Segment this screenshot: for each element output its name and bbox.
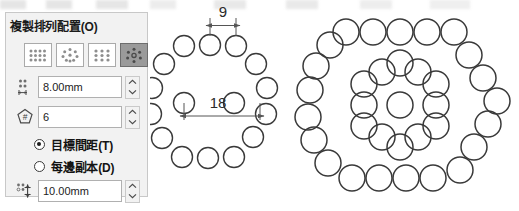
spacing-spinner-up[interactable]	[126, 77, 139, 88]
dimension-across-spacing: 18	[180, 94, 265, 120]
pattern-type-button-group	[24, 43, 148, 67]
radio-copies-per-side-label: 每邊副本(D)	[51, 158, 114, 175]
distance-spinner-up[interactable]	[126, 181, 139, 192]
distance-field-row: 10.00mm	[14, 179, 140, 203]
count-input[interactable]: 6	[38, 106, 122, 128]
circular-array-icon	[60, 47, 80, 63]
pattern-type-linear-array-button[interactable]	[24, 43, 52, 67]
pattern-type-rectangular-array-button[interactable]	[88, 43, 116, 67]
spacing-field-row: 8.00mm	[14, 75, 140, 99]
pattern-property-panel: 複製排列配置(O)	[5, 12, 148, 197]
dimension-side-spacing: 9	[206, 3, 241, 36]
spacing-spinner-down[interactable]	[126, 87, 139, 98]
hexagon-nested-array	[295, 19, 510, 191]
rectangular-array-icon	[93, 48, 111, 63]
polygon-array-icon	[124, 47, 144, 64]
dimension-side-spacing-value: 9	[219, 3, 227, 20]
radio-option-copies-per-side[interactable]: 每邊副本(D)	[34, 157, 114, 175]
distance-input[interactable]: 10.00mm	[38, 180, 122, 202]
spacing-input[interactable]: 8.00mm	[38, 76, 122, 98]
row-spacing-icon	[14, 180, 36, 202]
spacing-spinner[interactable]	[125, 76, 140, 99]
count-spinner-up[interactable]	[126, 107, 139, 118]
polygon-count-icon: #	[14, 106, 36, 128]
page-title: 複製排列配置(O)	[10, 17, 98, 34]
radio-target-spacing-label: 目標間距(T)	[51, 136, 113, 153]
linear-array-icon	[28, 48, 48, 63]
pattern-type-polygon-array-button[interactable]	[120, 43, 148, 67]
spacing-icon	[14, 76, 36, 98]
array-center-circle	[387, 92, 413, 118]
svg-text:#: #	[23, 112, 28, 122]
drawing-canvas: 9 18	[150, 0, 519, 211]
count-spinner[interactable]	[125, 106, 140, 129]
radio-option-target-spacing[interactable]: 目標間距(T)	[34, 135, 113, 153]
count-spinner-down[interactable]	[126, 117, 139, 128]
pattern-type-circular-array-button[interactable]	[56, 43, 84, 67]
radio-copies-per-side-indicator[interactable]	[34, 161, 45, 172]
distance-spinner[interactable]	[125, 180, 140, 203]
dimension-across-spacing-value: 18	[210, 94, 227, 111]
count-field-row: # 6	[14, 105, 140, 129]
distance-spinner-down[interactable]	[126, 191, 139, 202]
radio-target-spacing-indicator[interactable]	[34, 139, 45, 150]
